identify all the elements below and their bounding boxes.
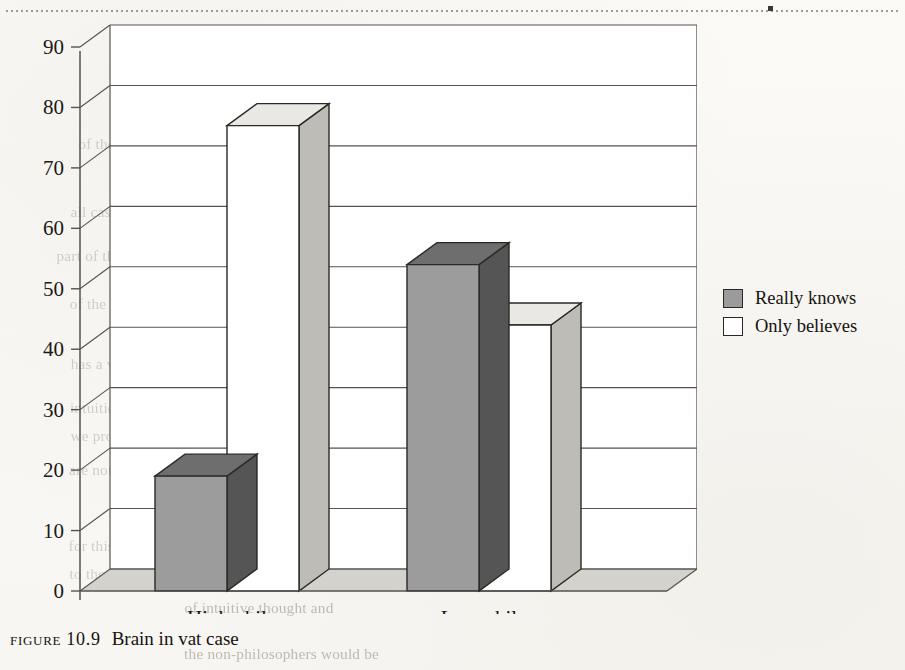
legend-label-only-believes: Only believes — [755, 316, 857, 337]
legend-item-really-knows: Really knows — [723, 288, 857, 309]
bar-chart: 0102030405060708090High philLow phil — [27, 24, 697, 614]
gridline-connector — [80, 85, 110, 107]
bar-0-really-knows-front — [155, 476, 227, 591]
chart-canvas: 0102030405060708090High philLow phil — [27, 24, 697, 614]
y-axis-tick-label: 90 — [43, 35, 64, 59]
y-axis-tick-label: 70 — [43, 156, 64, 180]
legend-item-only-believes: Only believes — [723, 316, 857, 337]
legend-swatch-really-knows — [723, 289, 743, 308]
bar-0-only-believes-side — [299, 104, 329, 591]
chart-legend: Really knows Only believes — [723, 288, 857, 337]
y-axis-tick-label: 30 — [43, 398, 64, 422]
y-axis-tick-label: 40 — [43, 337, 64, 361]
x-axis-category-label: High phil — [187, 606, 267, 614]
gridline-connector — [80, 267, 110, 289]
y-axis-tick-label: 10 — [43, 519, 64, 543]
legend-label-really-knows: Really knows — [755, 288, 856, 309]
legend-swatch-only-believes — [723, 317, 743, 336]
gridline-connector — [80, 327, 110, 349]
y-axis-tick-label: 20 — [43, 458, 64, 482]
bar-1-only-believes-side — [551, 303, 581, 591]
figure-title: Brain in vat case — [112, 628, 239, 650]
y-axis-tick-label: 80 — [43, 95, 64, 119]
y-axis-tick-label: 50 — [43, 277, 64, 301]
gridline-connector — [80, 509, 110, 531]
gridline-connector — [80, 146, 110, 168]
gridline-connector — [80, 388, 110, 410]
gridline-connector — [80, 206, 110, 228]
bar-1-really-knows-front — [407, 265, 479, 591]
figure-caption: FIGURE 10.9 Brain in vat case — [10, 628, 239, 650]
gridline-connector — [80, 25, 110, 47]
figure-number: FIGURE 10.9 — [10, 629, 101, 650]
y-axis-tick-label: 0 — [54, 579, 65, 603]
y-axis-tick-label: 60 — [43, 216, 64, 240]
bar-0-really-knows-side — [227, 454, 257, 591]
gridline-connector — [80, 448, 110, 470]
figure-10-9: 0102030405060708090High philLow phil Rea… — [0, 0, 905, 670]
x-axis-category-label: Low phil — [441, 606, 518, 614]
bar-1-really-knows-side — [479, 243, 509, 591]
